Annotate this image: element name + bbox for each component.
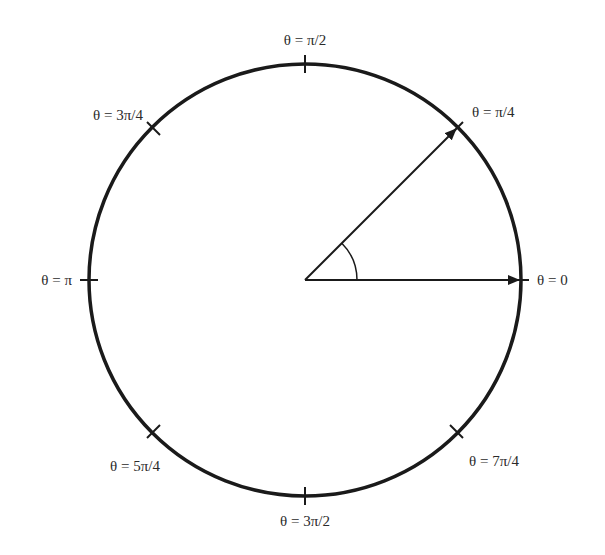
label-theta-pi-4: θ = π/4 bbox=[472, 104, 515, 120]
label-theta-3pi-2: θ = 3π/2 bbox=[280, 513, 330, 529]
label-theta-pi: θ = π bbox=[41, 272, 72, 288]
label-theta-3pi-4: θ = 3π/4 bbox=[93, 107, 143, 123]
label-theta-pi-2: θ = π/2 bbox=[284, 32, 326, 48]
label-theta-0: θ = 0 bbox=[537, 272, 568, 288]
angle-arc bbox=[342, 243, 357, 280]
vector-theta-pi-4 bbox=[305, 129, 456, 280]
unit-circle-diagram: θ = 0 θ = π/4 θ = π/2 θ = 3π/4 θ = π θ =… bbox=[0, 0, 605, 555]
label-theta-7pi-4: θ = 7π/4 bbox=[469, 453, 519, 469]
label-theta-5pi-4: θ = 5π/4 bbox=[110, 458, 160, 474]
